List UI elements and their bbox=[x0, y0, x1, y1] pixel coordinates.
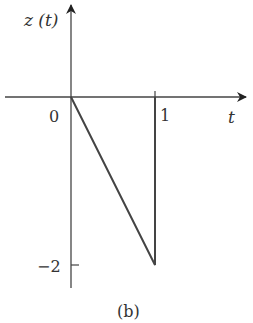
x-axis-label: t bbox=[228, 107, 235, 127]
signal-plot: z (t) 0 1 t −2 (b) bbox=[0, 0, 253, 323]
y-axis-label: z (t) bbox=[23, 10, 58, 30]
signal-curve bbox=[71, 97, 155, 265]
figure-caption: (b) bbox=[117, 302, 140, 321]
y-tick-label: −2 bbox=[37, 257, 61, 276]
origin-label: 0 bbox=[49, 107, 59, 126]
x-tick-label: 1 bbox=[160, 106, 170, 125]
